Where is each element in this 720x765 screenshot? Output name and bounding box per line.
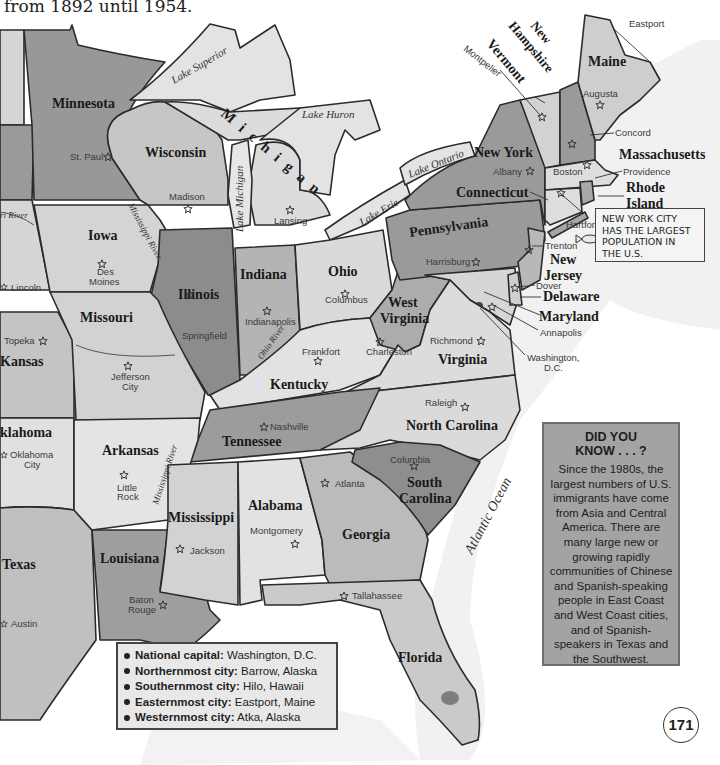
label-missouri: Missouri: [80, 310, 133, 325]
fact-value: Hilo, Hawaii: [243, 680, 304, 692]
label-maine: Maine: [588, 54, 626, 69]
fact-label: Southernmost city:: [135, 680, 240, 692]
label-lansing: Lansing: [274, 215, 307, 226]
label-tennessee: Tennessee: [222, 434, 281, 449]
did-you-know-box: DID YOU KNOW . . . ? Since the 1980s, th…: [542, 422, 680, 666]
fact-value: Barrow, Alaska: [241, 665, 317, 677]
label-jackson: Jackson: [190, 545, 225, 556]
label-harrisburg: Harrisburg: [426, 256, 470, 267]
fact-national-capital: National capital: Washington, D.C.: [124, 648, 330, 664]
fact-value: Eastport, Maine: [235, 696, 316, 708]
fact-southernmost-city: Southernmost city: Hilo, Hawaii: [124, 679, 330, 695]
label-west-virginia-2: Virginia: [380, 311, 429, 326]
label-dover: Dover: [536, 280, 561, 291]
label-west-virginia-1: West: [388, 295, 418, 310]
fact-northernmost-city: Northernmost city: Barrow, Alaska: [124, 664, 330, 680]
did-you-know-title: DID YOU KNOW . . . ?: [548, 430, 674, 458]
state-rhode-island: [580, 181, 594, 205]
label-raleigh: Raleigh: [425, 397, 457, 408]
fact-value: Washington, D.C.: [227, 649, 317, 661]
did-you-know-body: Since the 1980s, the largest numbers of …: [548, 462, 674, 666]
label-maryland: Maryland: [539, 309, 599, 324]
label-albany: Albany: [493, 166, 522, 177]
label-concord: Concord: [615, 127, 651, 138]
label-washington-2: D.C.: [544, 362, 563, 373]
label-north-carolina: North Carolina: [406, 418, 498, 433]
label-florida: Florida: [398, 650, 442, 665]
label-alabama: Alabama: [248, 498, 302, 513]
label-wisconsin: Wisconsin: [145, 145, 206, 160]
label-lincoln: Lincoln: [11, 282, 41, 293]
label-oklahoma-city-2: City: [24, 459, 41, 470]
label-delaware: Delaware: [543, 289, 600, 304]
us-facts-box: National capital: Washington, D.C. North…: [116, 642, 338, 730]
label-richmond: Richmond: [430, 335, 473, 346]
fact-label: Westernmost city:: [135, 711, 234, 723]
label-des-moines-2: Moines: [89, 276, 120, 287]
bullet-icon: [124, 653, 130, 659]
label-missouri-river: ri River: [0, 210, 28, 220]
nyc-population-note: NEW YORK CITY HAS THE LARGEST POPULATION…: [595, 208, 705, 262]
fact-label: National capital:: [135, 649, 224, 661]
bullet-icon: [124, 684, 130, 690]
label-atlanta: Atlanta: [335, 478, 365, 489]
label-trenton: Trenton: [545, 240, 577, 251]
bullet-icon: [124, 699, 130, 705]
label-madison: Madison: [169, 191, 205, 202]
label-st-paul: St. Paul: [70, 151, 103, 162]
label-texas: Texas: [2, 557, 36, 572]
label-jefferson-city-2: City: [122, 381, 139, 392]
fact-label: Northernmost city:: [135, 665, 238, 677]
page-number: 171: [663, 707, 699, 743]
state-mississippi: [160, 462, 238, 605]
label-kansas: Kansas: [0, 354, 44, 369]
label-springfield: Springfield: [182, 330, 227, 341]
label-kentucky: Kentucky: [270, 377, 328, 392]
fact-easternmost-city: Easternmost city: Eastport, Maine: [124, 695, 330, 711]
fact-westernmost-city: Westernmost city: Atka, Alaska: [124, 710, 330, 726]
bullet-icon: [124, 715, 130, 721]
label-virginia: Virginia: [438, 352, 487, 367]
label-frankfort: Frankfort: [302, 346, 340, 357]
label-illinois: Illinois: [178, 287, 220, 302]
label-columbia: Columbia: [390, 454, 431, 465]
label-columbus: Columbus: [325, 294, 368, 305]
label-indianapolis: Indianapolis: [245, 316, 296, 327]
label-arkansas: Arkansas: [102, 443, 159, 458]
label-indiana: Indiana: [240, 267, 287, 282]
label-lake-huron: Lake Huron: [301, 108, 355, 120]
label-boston: Boston: [553, 166, 583, 177]
label-connecticut: Connecticut: [456, 185, 529, 200]
label-new-jersey-1: New: [550, 252, 577, 267]
label-baton-rouge-2: Rouge: [128, 604, 156, 615]
label-ohio: Ohio: [328, 264, 358, 279]
label-montgomery: Montgomery: [250, 525, 303, 536]
did-you-know-title-line: DID YOU: [548, 430, 674, 444]
label-iowa: Iowa: [88, 228, 118, 243]
label-lake-michigan: Lake Michigan: [233, 165, 245, 233]
label-austin: Austin: [11, 618, 37, 629]
label-south-carolina-1: South: [407, 475, 442, 490]
label-new-york: New York: [474, 145, 533, 160]
label-georgia: Georgia: [342, 527, 390, 542]
nyc-note-line: THE U.S.: [602, 248, 698, 260]
label-minnesota: Minnesota: [52, 96, 115, 111]
bullet-icon: [124, 668, 130, 674]
label-south-carolina-2: Carolina: [399, 491, 452, 506]
label-annapolis: Annapolis: [540, 327, 582, 338]
label-mississippi: Mississippi: [168, 510, 234, 525]
label-little-rock-2: Rock: [117, 491, 139, 502]
label-tallahassee: Tallahassee: [352, 590, 402, 601]
label-charleston: Charleston: [366, 346, 412, 357]
label-providence: Providence: [623, 166, 671, 177]
nyc-note-line: POPULATION IN: [602, 236, 698, 248]
label-massachusetts: Massachusetts: [619, 147, 706, 162]
did-you-know-title-line: KNOW . . . ?: [548, 444, 674, 458]
label-rhode-island-1: Rhode: [626, 180, 665, 195]
label-eastport: Eastport: [629, 18, 665, 29]
nyc-note-line: HAS THE LARGEST: [602, 225, 698, 237]
label-louisiana: Louisiana: [100, 551, 159, 566]
fact-value: Atka, Alaska: [237, 711, 300, 723]
fact-label: Easternmost city:: [135, 696, 232, 708]
label-oklahoma: klahoma: [0, 425, 52, 440]
